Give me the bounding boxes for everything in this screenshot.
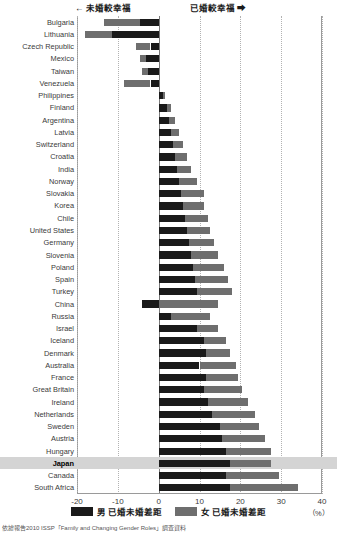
country-label: Philippines	[38, 91, 74, 100]
table-row[interactable]	[77, 264, 322, 271]
bar-segment-male	[159, 190, 181, 197]
bar-segment-female	[208, 398, 249, 405]
bar-segment-female	[179, 178, 197, 185]
bar-segment-female	[206, 349, 231, 356]
bar-segment-male	[159, 239, 190, 246]
country-label: India	[58, 165, 74, 174]
table-row[interactable]	[77, 300, 322, 307]
table-row[interactable]	[77, 43, 322, 50]
country-label: Poland	[51, 263, 74, 272]
country-label: Lithuania	[44, 30, 74, 39]
table-row[interactable]	[77, 92, 322, 99]
bar-segment-male	[159, 104, 167, 111]
bar-segment-male	[159, 313, 171, 320]
bar-segment-female	[181, 190, 203, 197]
country-label: Korea	[54, 201, 74, 210]
table-row[interactable]	[77, 386, 322, 393]
country-label: Iceland	[50, 336, 74, 345]
country-label: Chile	[57, 214, 74, 223]
bar-segment-female	[206, 374, 239, 381]
bar-segment-female	[193, 264, 224, 271]
table-row[interactable]	[77, 251, 322, 258]
bar-segment-female	[173, 141, 183, 148]
table-row[interactable]	[77, 227, 322, 234]
table-row[interactable]	[77, 325, 322, 332]
table-row[interactable]	[77, 313, 322, 320]
bar-segment-female	[177, 166, 191, 173]
bar-segment-female	[197, 288, 232, 295]
table-row[interactable]	[77, 215, 322, 222]
bar-segment-female	[187, 227, 209, 234]
bar-segment-female	[226, 448, 271, 455]
table-row[interactable]	[77, 239, 322, 246]
country-label: Netherlands	[34, 410, 74, 419]
legend-label-male: 男 已婚未婚差距	[97, 505, 162, 517]
bar-segment-male	[159, 215, 186, 222]
table-row[interactable]	[77, 398, 322, 405]
bar-segment-female	[171, 129, 179, 136]
plot-area	[77, 16, 322, 494]
bar-segment-negative	[142, 300, 158, 307]
table-row[interactable]	[77, 31, 322, 38]
bar-segment-female	[204, 337, 226, 344]
bar-segment-female	[163, 92, 165, 99]
header-annotations: ← 未婚較幸福 已婚較幸福 ➡	[0, 0, 337, 16]
table-row[interactable]	[77, 276, 322, 283]
legend-item-female: 女 已婚未婚差距	[175, 505, 266, 517]
table-row[interactable]	[77, 19, 322, 26]
table-row[interactable]	[77, 374, 322, 381]
table-row[interactable]	[77, 411, 322, 418]
table-row[interactable]	[77, 423, 322, 430]
table-row[interactable]	[77, 129, 322, 136]
bar-segment-female	[230, 484, 297, 491]
country-label: France	[51, 373, 74, 382]
table-row[interactable]	[77, 337, 322, 344]
bar-segment-male	[159, 227, 188, 234]
table-row[interactable]	[77, 153, 322, 160]
bar-segment-male	[146, 55, 158, 62]
table-row[interactable]	[77, 190, 322, 197]
country-label: Canada	[48, 471, 74, 480]
country-label: Argentina	[42, 116, 74, 125]
table-row[interactable]	[77, 362, 322, 369]
country-label: Norway	[49, 177, 74, 186]
bar-segment-female	[197, 325, 217, 332]
bar-segment-female	[142, 68, 148, 75]
bar-segment-male	[159, 178, 179, 185]
table-row[interactable]	[77, 460, 322, 467]
legend-item-male: 男 已婚未婚差距	[71, 505, 162, 517]
country-label: Turkey	[52, 287, 74, 296]
bar-segment-male	[159, 337, 204, 344]
country-label: United States	[30, 226, 74, 235]
table-row[interactable]	[77, 202, 322, 209]
x-axis-line	[77, 493, 322, 494]
table-row[interactable]	[77, 104, 322, 111]
bar-segment-male	[159, 264, 194, 271]
bar-segment-male	[151, 80, 159, 87]
table-row[interactable]	[77, 178, 322, 185]
table-row[interactable]	[77, 472, 322, 479]
table-row[interactable]	[77, 141, 322, 148]
bar-segment-female	[175, 153, 187, 160]
country-label: Venezuela	[39, 79, 74, 88]
table-row[interactable]	[77, 166, 322, 173]
bar-segment-female	[212, 411, 255, 418]
bar-segment-male	[159, 166, 177, 173]
country-label: Croatia	[50, 152, 74, 161]
table-row[interactable]	[77, 55, 322, 62]
table-row[interactable]	[77, 80, 322, 87]
bar-segment-male	[159, 423, 220, 430]
bar-segment-male	[159, 202, 184, 209]
country-label: Taiwan	[51, 67, 74, 76]
table-row[interactable]	[77, 288, 322, 295]
table-row[interactable]	[77, 117, 322, 124]
source-note: 依據報告2010 ISSP「Family and Changing Gender…	[2, 523, 186, 532]
table-row[interactable]	[77, 68, 322, 75]
country-label: Slovenia	[46, 251, 74, 260]
table-row[interactable]	[77, 484, 322, 491]
table-row[interactable]	[77, 448, 322, 455]
bar-segment-male	[159, 398, 208, 405]
country-label: Japan	[53, 459, 74, 468]
table-row[interactable]	[77, 435, 322, 442]
table-row[interactable]	[77, 349, 322, 356]
